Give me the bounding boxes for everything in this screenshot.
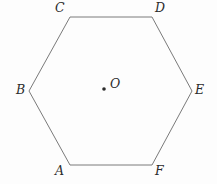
vertex-label-f: F <box>155 165 164 178</box>
hexagon-figure: C D B E A F O <box>0 0 217 184</box>
vertex-label-d: D <box>155 2 165 15</box>
vertex-label-e: E <box>195 84 204 97</box>
vertex-label-b: B <box>16 84 25 97</box>
vertex-label-c: C <box>55 2 65 15</box>
vertex-label-a: A <box>55 165 64 178</box>
hexagon-outline <box>29 17 192 165</box>
center-point-dot <box>102 87 106 91</box>
center-point-label: O <box>110 78 120 91</box>
hexagon-diagram <box>0 0 217 184</box>
